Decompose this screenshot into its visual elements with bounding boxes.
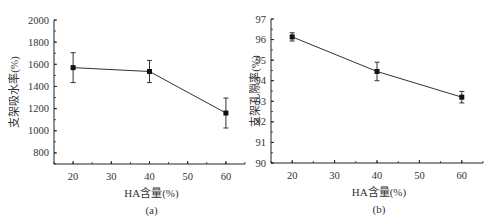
chart-b-plot: 90919293949596972030405060HA含量(%)(b)支架孔隙… — [247, 0, 497, 224]
x-tick-label: 30 — [329, 170, 340, 181]
chart-panel-a: 8001000120014001600180020002030405060HA含… — [0, 0, 250, 224]
y-tick-label: 90 — [256, 158, 267, 169]
y-tick-label: 96 — [256, 34, 267, 45]
x-tick-label: 60 — [221, 171, 232, 182]
y-tick-label: 2000 — [28, 15, 49, 26]
y-tick-label: 1000 — [28, 125, 49, 136]
data-point-marker — [71, 65, 76, 70]
y-axis-title: 支架孔隙率(%) — [248, 55, 262, 127]
chart-a-plot: 8001000120014001600180020002030405060HA含… — [0, 0, 250, 224]
y-axis-title: 支架吸水率(%) — [7, 56, 21, 128]
x-tick-label: 60 — [457, 170, 468, 181]
y-tick-label: 1400 — [28, 81, 49, 92]
data-point-marker — [459, 95, 464, 100]
data-point-marker — [375, 69, 380, 74]
x-tick-label: 20 — [68, 171, 79, 182]
y-tick-label: 800 — [33, 147, 49, 158]
x-tick-label: 50 — [414, 170, 425, 181]
y-tick-label: 1600 — [28, 59, 49, 70]
panel-label: (b) — [373, 203, 386, 216]
x-tick-label: 30 — [106, 171, 117, 182]
y-tick-label: 1800 — [28, 37, 49, 48]
x-tick-label: 40 — [144, 171, 155, 182]
y-tick-label: 1200 — [28, 103, 49, 114]
y-tick-label: 97 — [256, 14, 267, 25]
x-axis-title: HA含量(%) — [124, 186, 179, 200]
chart-panel-b: 90919293949596972030405060HA含量(%)(b)支架孔隙… — [247, 0, 497, 224]
x-axis-title: HA含量(%) — [352, 185, 407, 199]
y-tick-label: 91 — [256, 137, 267, 148]
x-tick-label: 40 — [372, 170, 383, 181]
x-tick-label: 20 — [287, 170, 298, 181]
data-point-marker — [290, 34, 295, 39]
x-tick-label: 50 — [182, 171, 193, 182]
data-point-marker — [147, 69, 152, 74]
panel-label: (a) — [145, 204, 158, 217]
data-point-marker — [223, 111, 228, 116]
